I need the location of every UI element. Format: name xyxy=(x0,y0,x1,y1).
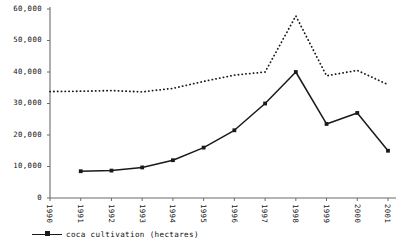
data-point-marker xyxy=(202,146,206,150)
x-axis-tick-label: 2001 xyxy=(383,204,391,223)
x-axis-tick-label: 1990 xyxy=(45,204,53,223)
x-axis-tick-label: 1998 xyxy=(291,204,299,223)
data-point-marker xyxy=(325,122,329,126)
y-axis-tick-label: 60,000 xyxy=(0,5,42,13)
data-point-marker xyxy=(110,169,114,173)
data-point-marker xyxy=(79,169,83,173)
data-point-marker xyxy=(171,158,175,162)
series-line-0 xyxy=(81,72,388,171)
y-axis-tick-label: 50,000 xyxy=(0,36,42,44)
x-axis-tick-label: 1991 xyxy=(76,204,84,223)
x-axis-tick-label: 1997 xyxy=(260,204,268,223)
y-axis-tick-label: 40,000 xyxy=(0,68,42,76)
y-axis-tick-label: 20,000 xyxy=(0,131,42,139)
y-axis-tick-label: 30,000 xyxy=(0,99,42,107)
data-point-marker xyxy=(232,128,236,132)
data-point-marker xyxy=(140,166,144,170)
x-axis-tick-label: 1994 xyxy=(168,204,176,223)
x-axis-tick-label: 2000 xyxy=(353,204,361,223)
axis-lines xyxy=(50,7,396,198)
legend-line-swatch-icon xyxy=(32,230,62,239)
chart-legend: coca cultivation (hectares) xyxy=(32,228,199,240)
data-point-marker xyxy=(355,111,359,115)
series-line-1 xyxy=(50,16,388,92)
x-axis-tick-label: 1993 xyxy=(138,204,146,223)
data-point-marker xyxy=(294,70,298,74)
x-axis-tick-label: 1995 xyxy=(199,204,207,223)
data-series-layer xyxy=(50,16,390,173)
data-point-marker xyxy=(386,149,390,153)
y-axis-tick-label: 0 xyxy=(0,194,42,202)
y-axis-tick-label: 10,000 xyxy=(0,162,42,170)
data-point-marker xyxy=(263,102,267,106)
x-axis-tick-label: 1992 xyxy=(107,204,115,223)
x-axis-tick-label: 1999 xyxy=(322,204,330,223)
x-axis-tick-label: 1996 xyxy=(230,204,238,223)
chart-container: 010,00020,00030,00040,00050,00060,000 19… xyxy=(0,0,405,243)
legend-item-label: coca cultivation (hectares) xyxy=(66,230,199,239)
